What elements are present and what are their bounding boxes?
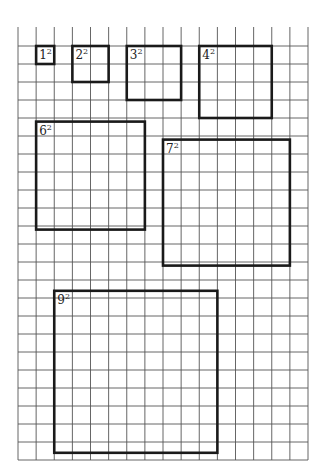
square-7-label: 72 <box>166 141 179 156</box>
square-6-label: 62 <box>39 123 52 138</box>
square-1-label: 12 <box>39 47 52 62</box>
square-4-label: 42 <box>202 47 215 62</box>
square-9-outline <box>54 291 217 453</box>
square-9-label: 92 <box>57 292 70 307</box>
square-3-label: 32 <box>130 47 143 62</box>
square-7-outline <box>163 140 290 266</box>
square-2-label: 22 <box>75 47 88 62</box>
grid-squares-diagram: 12223242627292 <box>0 0 325 473</box>
